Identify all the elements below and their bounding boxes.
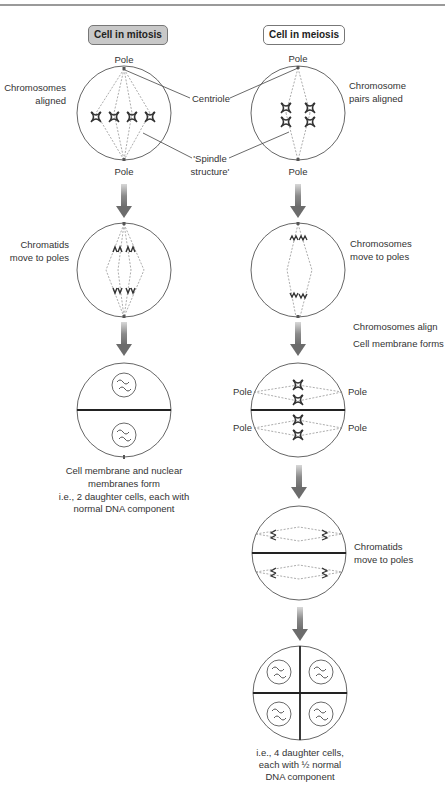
mitosis-cell-3 (77, 363, 171, 459)
chromosome-pairs-aligned-label: Chromosome pairs aligned (349, 80, 406, 105)
chromatids-move-label: Chromatids move to poles (0, 239, 69, 264)
arrow-down-icon (290, 184, 306, 218)
mitosis-header: Cell in mitosis (88, 25, 168, 45)
chromatids-move-meiosis-label: Chromatids move to poles (354, 541, 413, 566)
arrow-down-icon (291, 465, 307, 499)
pole-label: Pole (284, 53, 312, 65)
meiosis-cell-3 (251, 363, 345, 457)
pole-label: Pole (233, 422, 252, 434)
spindle-structure-label: 'Spindle structure' (185, 153, 235, 178)
centriole-label: Centriole (192, 93, 230, 105)
meiosis-result-caption: i.e., 4 daughter cells, each with ½ norm… (250, 747, 350, 783)
pole-label: Pole (110, 166, 138, 178)
mitosis-cell-2 (77, 222, 171, 318)
chromosomes-aligned-label: Chromosomes aligned (0, 82, 66, 107)
chromosomes-align-label: Chromosomes align (353, 321, 437, 333)
pole-label: Pole (284, 166, 312, 178)
meiosis-header: Cell in meiosis (263, 25, 345, 45)
leader-lines (125, 68, 298, 158)
meiosis-cell-4 (252, 506, 346, 600)
meiosis-cell-2 (251, 222, 345, 318)
chromosomes-move-label: Chromosomes move to poles (350, 238, 412, 263)
pole-label: Pole (233, 386, 252, 398)
pole-label: Pole (348, 422, 367, 434)
mitosis-cell-1 (77, 66, 171, 161)
mitosis-result-caption: Cell membrane and nuclear membranes form… (54, 465, 194, 516)
pole-label: Pole (348, 386, 367, 398)
arrow-down-icon (290, 322, 306, 356)
meiosis-cell-1 (251, 66, 345, 161)
arrow-down-icon (116, 184, 132, 218)
arrow-down-icon (292, 607, 308, 641)
cell-membrane-forms-label: Cell membrane forms (353, 338, 444, 350)
arrow-down-icon (116, 322, 132, 356)
pole-label: Pole (110, 54, 138, 66)
meiosis-cell-5 (253, 646, 347, 740)
diagram-canvas (0, 0, 445, 807)
